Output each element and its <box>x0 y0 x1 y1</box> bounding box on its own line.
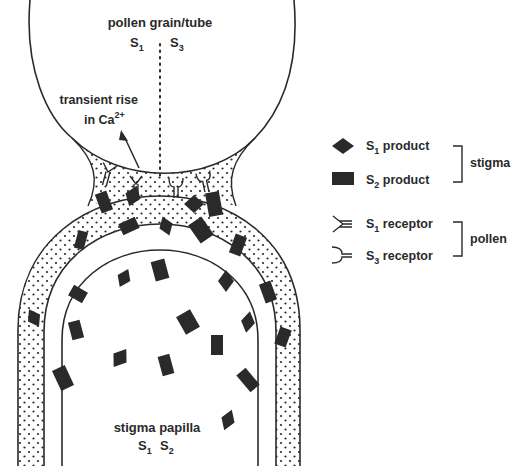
s1-receptor-legend-icon <box>333 216 352 232</box>
calcium-label-line1: transient rise <box>59 93 138 107</box>
legend-s1-product: S1 product <box>366 139 430 156</box>
pollen-bracket <box>453 222 462 256</box>
legend-group-pollen: pollen <box>470 232 507 246</box>
pollen-title: pollen grain/tube <box>108 15 213 30</box>
pollen-allele-s1: S1 <box>130 35 144 53</box>
calcium-label-line2: in Ca2+ <box>84 110 125 127</box>
legend: S1 product S2 product stigma S1 receptor… <box>332 138 511 266</box>
legend-s3-receptor: S3 receptor <box>366 249 433 266</box>
s1-product-diamond-icon <box>332 138 354 154</box>
self-incompatibility-diagram: pollen grain/tube S1 S3 transient rise i… <box>0 0 531 466</box>
legend-group-stigma: stigma <box>470 156 511 170</box>
stigma-bracket <box>453 146 462 182</box>
s2-product-rectangle-icon <box>332 172 354 185</box>
s3-receptor-legend-icon <box>332 247 352 263</box>
calcium-arrow <box>119 130 139 168</box>
legend-s2-product: S2 product <box>366 173 430 190</box>
stigma-title: stigma papilla <box>114 420 201 435</box>
pollen-allele-s3: S3 <box>170 35 184 53</box>
legend-s1-receptor: S1 receptor <box>366 217 433 234</box>
